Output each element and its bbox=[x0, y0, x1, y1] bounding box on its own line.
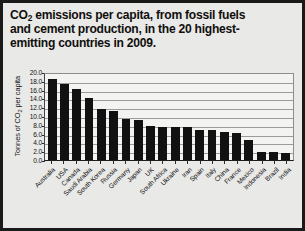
plot-area: Tonnes of CO2 per capita 20.018.016.014.… bbox=[3, 61, 302, 228]
x-axis-tick-mark bbox=[63, 161, 64, 164]
chart-figure: CO2 emissions per capita, from fossil fu… bbox=[0, 0, 305, 231]
bar-slot bbox=[46, 74, 58, 160]
bar bbox=[220, 132, 229, 160]
x-axis-tick-mark bbox=[212, 161, 213, 164]
bar-slot bbox=[132, 74, 144, 160]
x-axis-tick-mark bbox=[187, 161, 188, 164]
y-axis-tick-label: 6.0 bbox=[33, 131, 42, 138]
bar-slot bbox=[181, 74, 193, 160]
y-axis-tick-labels: 20.018.016.014.012.010.08.06.04.02.00.0 bbox=[22, 73, 42, 160]
chart-title: CO2 emissions per capita, from fossil fu… bbox=[10, 9, 295, 50]
x-axis-tick-mark bbox=[286, 161, 287, 164]
y-axis-tick-label: 0.0 bbox=[33, 158, 42, 165]
bar-slot bbox=[58, 74, 70, 160]
x-axis-tick-mark bbox=[162, 161, 163, 164]
y-axis-title-suffix: per capita bbox=[13, 76, 22, 109]
x-axis-tick-mark bbox=[51, 161, 52, 164]
bar-slot bbox=[95, 74, 107, 160]
bar bbox=[269, 152, 278, 160]
bar bbox=[122, 119, 131, 160]
x-axis-tick-mark bbox=[237, 161, 238, 164]
bar-slot bbox=[169, 74, 181, 160]
y-axis-tick-label: 2.0 bbox=[33, 149, 42, 156]
bar-slot bbox=[157, 74, 169, 160]
y-axis-title: Tonnes of CO2 per capita bbox=[13, 79, 22, 157]
bar bbox=[158, 127, 167, 160]
bar-slot bbox=[230, 74, 242, 160]
bar bbox=[134, 120, 143, 160]
chart-title-line-1: CO2 emissions per capita, from fossil fu… bbox=[10, 9, 295, 23]
bar bbox=[72, 89, 81, 160]
x-axis-tick-mark bbox=[274, 161, 275, 164]
bar-slot bbox=[280, 74, 292, 160]
x-axis-tick-label: Australia bbox=[33, 166, 56, 189]
y-axis-tick-label: 10.0 bbox=[30, 114, 42, 121]
y-axis-tick-label: 20.0 bbox=[30, 70, 42, 77]
bar bbox=[281, 153, 290, 160]
bar-slot bbox=[194, 74, 206, 160]
bar-slot bbox=[120, 74, 132, 160]
chart-title-line-1-rest: emissions per capita, from fossil fuels bbox=[32, 8, 245, 22]
x-axis-tick-mark bbox=[113, 161, 114, 164]
bar bbox=[109, 111, 118, 160]
bar-slot bbox=[107, 74, 119, 160]
y-axis-tick-label: 12.0 bbox=[30, 105, 42, 112]
chart-title-subscript: 2 bbox=[28, 13, 32, 23]
x-axis-tick-mark bbox=[100, 161, 101, 164]
y-axis-tick-label: 18.0 bbox=[30, 79, 42, 86]
x-axis-tick-mark bbox=[249, 161, 250, 164]
x-axis-tick-mark bbox=[262, 161, 263, 164]
bar bbox=[97, 109, 106, 160]
bar-series bbox=[45, 74, 293, 160]
bar bbox=[60, 84, 69, 160]
bar-slot bbox=[267, 74, 279, 160]
x-axis-tick-mark bbox=[76, 161, 77, 164]
x-axis-tick-mark bbox=[125, 161, 126, 164]
bar bbox=[146, 126, 155, 160]
bar bbox=[171, 127, 180, 160]
x-axis-tick-mark bbox=[138, 161, 139, 164]
bar bbox=[244, 140, 253, 160]
bar-slot bbox=[206, 74, 218, 160]
x-axis-tick-mark bbox=[175, 161, 176, 164]
x-axis-tick-mark bbox=[150, 161, 151, 164]
y-axis-tick-label: 4.0 bbox=[33, 140, 42, 147]
bar-slot bbox=[71, 74, 83, 160]
chart-title-line-3: emitting countries in 2009. bbox=[10, 37, 295, 50]
y-axis-tick-label: 8.0 bbox=[33, 123, 42, 130]
y-axis-tick-label: 14.0 bbox=[30, 96, 42, 103]
bar bbox=[48, 79, 57, 160]
bar bbox=[85, 98, 94, 160]
bar-slot bbox=[255, 74, 267, 160]
x-axis-tick-mark bbox=[224, 161, 225, 164]
bar-slot bbox=[144, 74, 156, 160]
bar bbox=[195, 130, 204, 160]
chart-axes bbox=[44, 73, 294, 161]
bar bbox=[232, 133, 241, 160]
y-axis-title-prefix: Tonnes of CO bbox=[13, 113, 22, 157]
bar-slot bbox=[83, 74, 95, 160]
bar bbox=[208, 130, 217, 160]
x-axis-tick-mark bbox=[88, 161, 89, 164]
chart-title-formula-prefix: CO bbox=[10, 8, 28, 22]
bar bbox=[183, 127, 192, 160]
bar bbox=[257, 152, 266, 160]
bar-slot bbox=[243, 74, 255, 160]
x-axis-tick-labels: AustraliaUSACanadaSaudi ArabiaSouth Kore… bbox=[44, 165, 294, 225]
y-axis-tick-label: 16.0 bbox=[30, 87, 42, 94]
bar-slot bbox=[218, 74, 230, 160]
x-axis-tick-mark bbox=[200, 161, 201, 164]
x-axis-label-slot: India bbox=[281, 165, 293, 225]
chart-title-line-2: and cement production, in the 20 highest… bbox=[10, 23, 295, 36]
